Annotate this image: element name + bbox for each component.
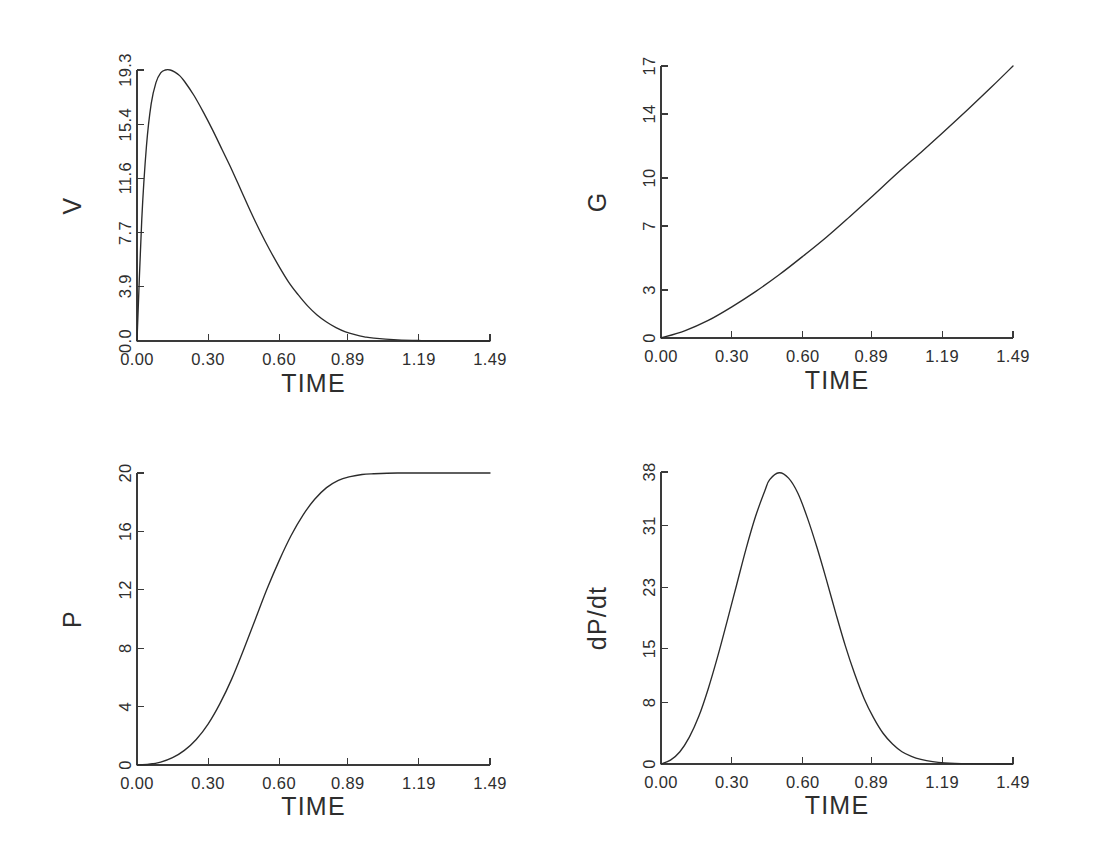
x-tick-label: 0.60: [786, 347, 820, 365]
y-tick-label: 16: [116, 522, 134, 541]
x-axis-title: TIME: [805, 366, 870, 394]
x-tick-label: 0.00: [120, 774, 154, 792]
y-tick-label: 3: [640, 285, 658, 295]
x-tick-label: 0.30: [715, 347, 749, 365]
y-tick-label: 8: [640, 698, 658, 708]
x-tick-label: 0.60: [786, 773, 820, 791]
x-axis-title: TIME: [281, 369, 346, 397]
x-tick-label: 1.19: [925, 773, 959, 791]
data-curve: [661, 66, 1013, 338]
y-tick-label: 19.3: [116, 53, 134, 87]
x-tick-label: 0.89: [331, 774, 365, 792]
x-tick-label: 0.30: [191, 774, 225, 792]
y-axis-title: G: [583, 192, 611, 213]
y-tick-label: 0: [116, 760, 134, 770]
y-tick-label: 15: [640, 639, 658, 658]
y-axis-title: dP/dt: [583, 586, 611, 650]
x-tick-label: 1.19: [925, 347, 959, 365]
x-tick-label: 0.60: [262, 350, 296, 368]
y-tick-label: 38: [640, 462, 658, 481]
y-tick-label: 17: [640, 56, 658, 75]
x-tick-label: 0.00: [644, 773, 678, 791]
x-axis-title: TIME: [805, 791, 870, 819]
x-tick-label: 0.30: [191, 350, 225, 368]
y-tick-label: 0.0: [116, 329, 134, 353]
x-tick-label: 0.00: [644, 347, 678, 365]
y-tick-label: 31: [640, 516, 658, 535]
y-tick-label: 14: [640, 104, 658, 123]
y-tick-label: 12: [116, 580, 134, 599]
x-tick-label: 1.49: [473, 350, 507, 368]
x-tick-label: 0.60: [262, 774, 296, 792]
y-axis-title: P: [58, 610, 86, 628]
data-curve: [137, 70, 490, 341]
x-tick-label: 0.89: [854, 347, 888, 365]
x-tick-label: 1.49: [996, 347, 1030, 365]
y-tick-label: 23: [640, 578, 658, 597]
y-tick-label: 4: [116, 702, 134, 712]
x-tick-label: 1.19: [402, 350, 436, 368]
data-curve: [137, 473, 490, 765]
x-tick-label: 1.49: [996, 773, 1030, 791]
x-tick-label: 0.30: [715, 773, 749, 791]
y-tick-label: 8: [116, 643, 134, 653]
x-tick-label: 1.49: [473, 774, 507, 792]
y-tick-label: 11.6: [116, 162, 134, 195]
x-axis-title: TIME: [281, 792, 346, 820]
y-axis-title: V: [58, 197, 86, 215]
y-tick-label: 7: [640, 221, 658, 231]
figure-canvas: 0.03.97.711.615.419.30.000.300.600.891.1…: [0, 0, 1095, 841]
y-tick-label: 20: [116, 463, 134, 482]
x-tick-label: 1.19: [402, 774, 436, 792]
x-tick-label: 0.00: [120, 350, 154, 368]
y-tick-label: 10: [640, 168, 658, 187]
y-tick-label: 3.9: [116, 274, 134, 298]
data-curve: [661, 473, 1013, 764]
x-tick-label: 0.89: [331, 350, 365, 368]
x-tick-label: 0.89: [854, 773, 888, 791]
y-tick-label: 15.4: [116, 108, 134, 142]
y-tick-label: 0: [640, 759, 658, 769]
y-tick-label: 7.7: [116, 221, 134, 245]
y-tick-label: 0: [640, 333, 658, 343]
